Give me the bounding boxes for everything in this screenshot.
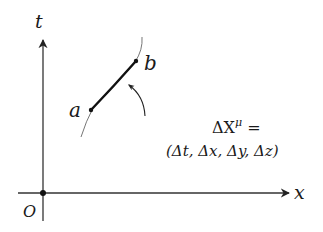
curved-arrow-icon [129,85,145,116]
delta-x-symbol: ΔX [212,118,236,137]
annotation-line1: ΔXμ = [212,116,261,137]
origin-dot [40,190,46,196]
origin-label: O [23,202,36,221]
spacetime-diagram: t x O a b ΔXμ = (Δt, Δx, Δy, Δz) [0,0,323,232]
annotation-line2: (Δt, Δx, Δy, Δz) [166,142,279,160]
point-a-label: a [69,98,81,122]
mu-superscript: μ [235,116,242,129]
point-b-dot [134,59,138,63]
point-a-dot [89,108,93,112]
point-b-label: b [144,51,157,75]
equals-sign: = [242,118,261,137]
x-axis-label: x [294,181,305,203]
t-axis-label: t [35,10,43,32]
